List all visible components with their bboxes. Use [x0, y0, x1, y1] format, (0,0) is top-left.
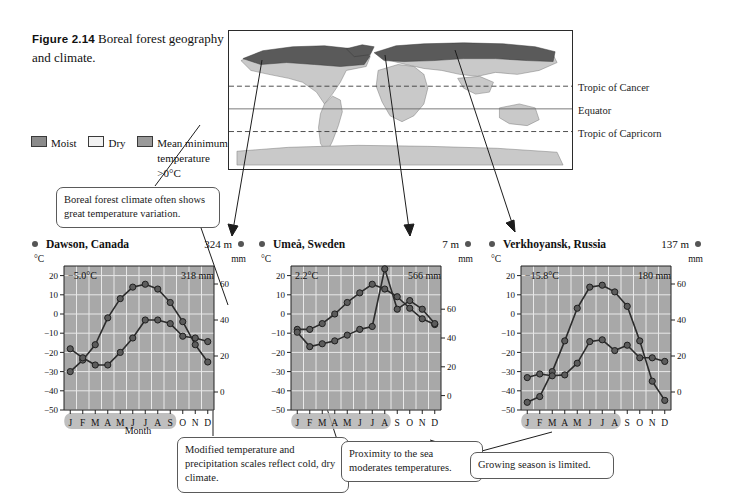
y2-axis-unit-mm: mm	[231, 254, 246, 264]
mean-temperature-value: 2.2°C	[295, 270, 318, 281]
mean-temperature-value: −5.0°C	[68, 270, 97, 281]
chart-title: Dawson, Canada	[46, 238, 129, 250]
figure-caption: Figure 2.14 Boreal forest geography and …	[32, 30, 242, 68]
y2-axis-unit-mm: mm	[458, 254, 473, 264]
chart-title: Verkhoyansk, Russia	[503, 238, 606, 250]
svg-text:F: F	[537, 418, 542, 428]
map-label-equator: Equator	[578, 105, 611, 116]
svg-text:20: 20	[506, 271, 516, 281]
moist-swatch-icon	[31, 136, 47, 147]
svg-text:D: D	[661, 418, 668, 428]
svg-text:J: J	[600, 418, 604, 428]
location-dot-right-icon	[465, 241, 471, 247]
svg-text:60: 60	[447, 304, 457, 314]
annual-precipitation-value: 180 mm	[638, 270, 671, 281]
svg-text:40: 40	[447, 333, 457, 343]
svg-text:−50: −50	[271, 405, 286, 415]
svg-text:M: M	[548, 418, 557, 428]
svg-text:S: S	[395, 418, 400, 428]
chart-header: Verkhoyansk, Russia 137 m	[487, 238, 703, 252]
svg-text:−20: −20	[44, 348, 59, 358]
climate-chart-umea: Umeå, Sweden 7 m 20100−10−20−30−40−50604…	[257, 238, 473, 443]
y-axis-unit-celsius: °C	[491, 254, 501, 264]
callout-modified-scales: Modified temperature and precipitation s…	[177, 437, 349, 493]
svg-text:−10: −10	[271, 328, 286, 338]
svg-text:0: 0	[220, 387, 225, 397]
chart-title: Umeå, Sweden	[273, 238, 345, 250]
svg-text:J: J	[358, 418, 362, 428]
svg-text:J: J	[370, 418, 374, 428]
figure-number: Figure 2.14	[32, 33, 95, 45]
svg-text:20: 20	[677, 351, 687, 361]
svg-text:J: J	[588, 418, 592, 428]
y-axis-unit-celsius: °C	[261, 254, 271, 264]
chart-header: Dawson, Canada 324 m	[30, 238, 246, 252]
svg-text:60: 60	[677, 279, 687, 289]
y-axis-unit-celsius: °C	[34, 254, 44, 264]
map-label-tropic-of-capricorn: Tropic of Capricorn	[578, 128, 662, 139]
svg-text:−10: −10	[501, 328, 516, 338]
svg-text:−50: −50	[44, 405, 59, 415]
svg-text:−20: −20	[501, 348, 516, 358]
svg-text:40: 40	[220, 315, 230, 325]
legend: Moist Dry Mean minimum temperature >0°C	[31, 136, 246, 181]
map-frame	[228, 30, 573, 170]
svg-text:0: 0	[677, 387, 682, 397]
svg-text:0: 0	[281, 309, 286, 319]
svg-text:10: 10	[49, 290, 59, 300]
mean-temperature-value: −15.8°C	[525, 270, 559, 281]
svg-text:M: M	[343, 418, 352, 428]
chart-plot: 20100−10−20−30−40−506040200JFMAMJJASOND …	[30, 252, 246, 440]
svg-text:O: O	[636, 418, 643, 428]
svg-text:−40: −40	[271, 386, 286, 396]
location-dot-left-icon	[32, 241, 38, 247]
annual-precipitation-value: 566 mm	[408, 270, 441, 281]
world-map: Tropic of Cancer Equator Tropic of Capri…	[228, 30, 573, 170]
svg-text:N: N	[419, 418, 426, 428]
location-dot-left-icon	[259, 241, 265, 247]
dry-swatch-icon	[88, 136, 104, 147]
svg-text:−40: −40	[44, 386, 59, 396]
chart-elevation: 7 m	[442, 238, 459, 250]
location-dot-right-icon	[238, 241, 244, 247]
svg-text:10: 10	[506, 290, 516, 300]
svg-text:0: 0	[511, 309, 516, 319]
y2-axis-unit-mm: mm	[688, 254, 703, 264]
legend-label-dry: Dry	[108, 136, 125, 151]
map-graphic	[229, 31, 572, 169]
svg-text:20: 20	[276, 271, 286, 281]
svg-text:20: 20	[49, 271, 59, 281]
svg-text:−10: −10	[44, 328, 59, 338]
x-axis-label: Month	[30, 425, 246, 436]
chart-elevation: 324 m	[204, 238, 232, 250]
chart-plot: 20100−10−20−30−40−506040200JFMAMJJASOND …	[257, 252, 473, 440]
svg-text:J: J	[525, 418, 529, 428]
svg-text:−30: −30	[501, 367, 516, 377]
svg-text:10: 10	[276, 290, 286, 300]
svg-text:0: 0	[54, 309, 59, 319]
svg-text:A: A	[381, 418, 388, 428]
svg-text:N: N	[649, 418, 656, 428]
climate-chart-verkhoyansk: Verkhoyansk, Russia 137 m 20100−10−20−30…	[487, 238, 703, 443]
chart-elevation: 137 m	[661, 238, 689, 250]
svg-text:D: D	[431, 418, 438, 428]
svg-text:J: J	[295, 418, 299, 428]
callout-growing-season: Growing season is limited.	[470, 452, 614, 479]
legend-item-moist: Moist	[31, 136, 77, 151]
svg-text:A: A	[561, 418, 568, 428]
map-label-tropic-of-cancer: Tropic of Cancer	[578, 82, 649, 93]
svg-text:20: 20	[220, 351, 230, 361]
svg-text:A: A	[611, 418, 618, 428]
svg-text:F: F	[307, 418, 312, 428]
svg-text:S: S	[625, 418, 630, 428]
svg-text:60: 60	[220, 279, 230, 289]
legend-item-mean-min-temp: Mean minimum temperature >0°C	[137, 136, 235, 181]
callout-sea-proximity: Proximity to the sea moderates temperatu…	[341, 441, 483, 482]
location-dot-left-icon	[489, 241, 495, 247]
annual-precipitation-value: 318 mm	[181, 270, 214, 281]
svg-text:−40: −40	[501, 386, 516, 396]
location-dot-right-icon	[695, 241, 701, 247]
svg-text:−50: −50	[501, 405, 516, 415]
chart-header: Umeå, Sweden 7 m	[257, 238, 473, 252]
svg-text:0: 0	[447, 391, 452, 401]
